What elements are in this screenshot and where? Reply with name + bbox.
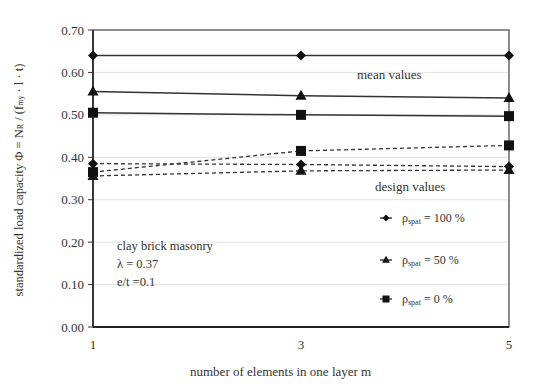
legend-label: ρspat = 0 % bbox=[402, 292, 453, 307]
y-tick-label: 0.00 bbox=[61, 320, 84, 335]
x-tick-label: 3 bbox=[298, 337, 305, 352]
x-tick-label: 1 bbox=[90, 337, 97, 352]
diamond-marker bbox=[383, 215, 390, 222]
square-marker bbox=[383, 296, 390, 303]
legend-item: ρspat = 100 % bbox=[380, 211, 465, 226]
series-line bbox=[88, 86, 515, 102]
y-tick-label: 0.70 bbox=[61, 23, 84, 38]
legend: ρspat = 100 %ρspat = 50 %ρspat = 0 % bbox=[380, 211, 465, 307]
info-eccentricity: e/t =0.1 bbox=[117, 275, 155, 289]
y-tick-label: 0.40 bbox=[61, 150, 84, 165]
legend-item: ρspat = 0 % bbox=[380, 292, 453, 307]
legend-label: ρspat = 50 % bbox=[402, 253, 459, 268]
diamond-marker bbox=[88, 50, 98, 60]
x-tick-label: 5 bbox=[506, 337, 513, 352]
design-values-label: design values bbox=[375, 179, 445, 194]
diamond-marker bbox=[296, 50, 306, 60]
square-marker bbox=[504, 111, 514, 121]
square-marker bbox=[88, 108, 98, 118]
diamond-marker bbox=[504, 50, 514, 60]
y-tick-label: 0.50 bbox=[61, 107, 84, 122]
square-marker bbox=[296, 110, 306, 120]
annotations: mean values design values clay brick mas… bbox=[117, 67, 445, 289]
series-line bbox=[88, 50, 514, 60]
y-axis-label: standardized load capacity Φ = NR / (fmy… bbox=[12, 64, 27, 297]
y-tick-label: 0.10 bbox=[61, 277, 84, 292]
y-tick-label: 0.20 bbox=[61, 235, 84, 250]
y-tick-label: 0.30 bbox=[61, 192, 84, 207]
square-marker bbox=[296, 146, 306, 156]
mean-values-label: mean values bbox=[357, 67, 422, 82]
plot-frame bbox=[93, 30, 509, 327]
legend-item: ρspat = 50 % bbox=[380, 253, 459, 268]
triangle-marker bbox=[88, 86, 99, 96]
legend-label: ρspat = 100 % bbox=[402, 211, 465, 226]
triangle-marker bbox=[296, 165, 307, 175]
y-tick-label: 0.60 bbox=[61, 65, 84, 80]
info-material: clay brick masonry bbox=[117, 239, 214, 253]
square-marker bbox=[504, 140, 514, 150]
triangle-marker bbox=[296, 90, 307, 100]
triangle-marker bbox=[504, 92, 515, 102]
triangle-marker bbox=[382, 256, 390, 263]
chart: 0.000.100.200.300.400.500.600.70135 mean… bbox=[0, 0, 542, 389]
info-lambda: λ = 0.37 bbox=[117, 257, 158, 271]
